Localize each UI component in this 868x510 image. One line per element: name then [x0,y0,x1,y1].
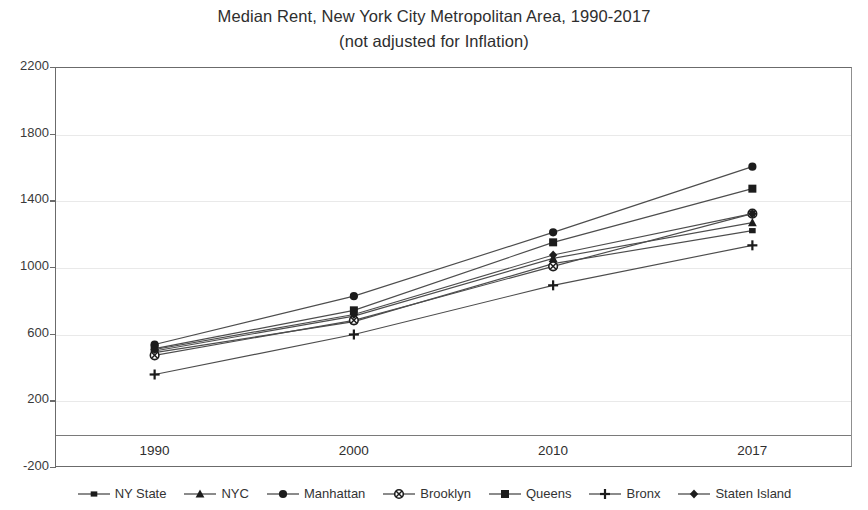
series-line [155,214,753,350]
plus-marker-icon [588,487,622,501]
diamond-marker-icon [677,487,711,501]
legend-item-queens[interactable]: Queens [488,486,572,501]
legend-item-staten-island[interactable]: Staten Island [677,486,791,501]
data-point-circle-x [549,262,558,271]
data-point-square-small [749,228,756,233]
series-manhattan [151,163,757,349]
chart-legend: NY StateNYCManhattanBrooklynQueensBronxS… [0,486,868,501]
data-point-square [501,490,509,498]
data-point-circle [748,163,756,171]
data-point-plus [600,489,610,499]
data-point-circle [279,489,287,497]
data-point-square-small [90,491,97,496]
data-point-square [549,238,557,246]
legend-item-label: NY State [115,486,167,501]
series-line [155,189,753,349]
legend-item-label: Queens [526,486,572,501]
series-bronx [150,240,758,379]
data-point-square [748,185,756,193]
legend-item-label: NYC [221,486,248,501]
legend-item-label: Bronx [626,486,660,501]
series-line [155,231,753,353]
triangle-marker-icon [183,487,217,501]
data-point-plus [747,240,757,250]
square-marker-icon [488,487,522,501]
data-point-diamond [690,489,698,498]
chart-container: Median Rent, New York City Metropolitan … [0,0,868,510]
data-point-circle [350,292,358,300]
legend-item-bronx[interactable]: Bronx [588,486,660,501]
data-point-plus [548,280,558,290]
legend-item-label: Manhattan [304,486,365,501]
series-queens [151,185,757,353]
square-small-marker-icon [77,487,111,501]
legend-item-nyc[interactable]: NYC [183,486,248,501]
data-point-circle-x [395,489,404,498]
circle-x-marker-icon [382,487,416,501]
series-line [155,167,753,345]
data-point-plus [349,330,359,340]
legend-item-label: Brooklyn [420,486,471,501]
data-point-triangle [748,218,757,226]
circle-marker-icon [266,487,300,501]
legend-item-label: Staten Island [715,486,791,501]
data-point-plus [150,370,160,380]
data-point-circle [549,228,557,236]
legend-item-brooklyn[interactable]: Brooklyn [382,486,471,501]
series-layer [0,0,868,510]
legend-item-manhattan[interactable]: Manhattan [266,486,365,501]
legend-item-ny-state[interactable]: NY State [77,486,167,501]
